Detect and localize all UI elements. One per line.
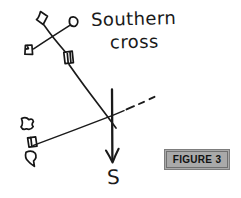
dash-segment-3: [150, 97, 155, 99]
figure-number-text: FIGURE 3: [173, 154, 222, 165]
star-crux-top-icon: [37, 12, 48, 25]
star-pointer-upper-icon: [21, 118, 33, 130]
bisector-dashed-extension: [127, 97, 155, 110]
label-southern-cross-line1: Southern: [91, 7, 177, 30]
star-crux-right-icon: [69, 17, 77, 27]
star-crux-bottom-icon: [64, 51, 74, 64]
figure-number-badge: FIGURE 3: [164, 149, 230, 170]
pointer-star-group: [21, 118, 37, 167]
dash-segment-1: [127, 106, 135, 109]
dash-segment-2: [139, 102, 144, 104]
crux-extension-line: [69, 65, 116, 128]
figure-number-badge-inner: FIGURE 3: [166, 151, 228, 168]
crux-axis-short-line: [34, 26, 70, 49]
star-pointer-lower-icon: [26, 151, 36, 166]
south-arrow: [106, 90, 119, 163]
star-crux-left-icon: [25, 45, 33, 54]
crux-axis-long-line: [44, 25, 66, 52]
southern-cross-axis-lines: [34, 25, 70, 52]
figure-canvas: Southern cross S FIGURE 3: [0, 0, 241, 198]
pointer-bisector-line: [33, 111, 124, 146]
label-southern-cross-line2: cross: [110, 31, 159, 53]
star-pointer-middle-icon: [28, 137, 37, 147]
label-south-direction: S: [107, 165, 121, 189]
